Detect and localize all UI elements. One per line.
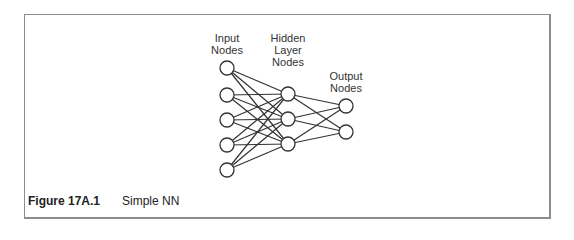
edge-input-hidden xyxy=(227,94,288,95)
output-node-1 xyxy=(339,99,353,113)
edge-input-hidden xyxy=(227,144,288,170)
input-node-4 xyxy=(220,138,234,152)
input-node-5 xyxy=(220,163,234,177)
hidden-node-3 xyxy=(281,137,295,151)
input-layer-label: Input Nodes xyxy=(205,32,249,56)
input-label-line1: Input xyxy=(205,32,249,44)
hidden-node-2 xyxy=(281,112,295,126)
hidden-label-line1: Hidden xyxy=(266,32,310,44)
output-label-line1: Output xyxy=(324,70,368,82)
output-label-line2: Nodes xyxy=(324,82,368,94)
input-label-line2: Nodes xyxy=(205,44,249,56)
input-node-3 xyxy=(220,113,234,127)
hidden-label-line3: Nodes xyxy=(266,56,310,68)
hidden-node-1 xyxy=(281,87,295,101)
hidden-label-line2: Layer xyxy=(266,44,310,56)
figure-title: Simple NN xyxy=(122,194,179,208)
figure-caption: Figure 17A.1Simple NN xyxy=(28,194,179,208)
input-node-2 xyxy=(220,88,234,102)
figure-number: Figure 17A.1 xyxy=(28,194,100,208)
input-node-1 xyxy=(220,61,234,75)
edge-input-hidden xyxy=(227,94,288,120)
output-node-2 xyxy=(339,125,353,139)
edge-hidden-output xyxy=(288,106,346,119)
edge-input-hidden xyxy=(227,68,288,119)
hidden-layer-label: Hidden Layer Nodes xyxy=(266,32,310,68)
output-layer-label: Output Nodes xyxy=(324,70,368,94)
edge-input-hidden xyxy=(227,68,288,94)
